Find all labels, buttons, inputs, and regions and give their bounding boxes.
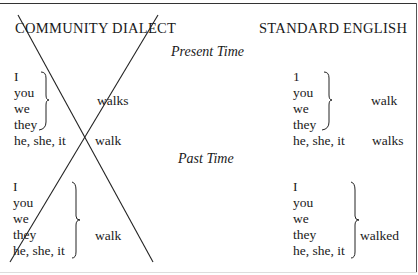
standard-english-header: STANDARD ENGLISH [259,20,407,36]
pronoun-single: he, she, it [293,133,345,149]
standard-present-group-pronouns: 1 you we they he, she, it [293,69,345,149]
pronoun: you [293,195,345,211]
standard-past-brace [351,182,359,258]
community-dialect-header: COMMUNITY DIALECT [15,20,176,36]
pronoun: we [14,101,66,117]
pronoun-single: he, she, it [14,133,66,149]
pronoun: they [293,227,345,243]
community-past-pronouns: I you we they he, she, it [13,179,65,259]
bottom-border [0,272,417,273]
pronoun: we [293,211,345,227]
dialect-comparison-table: COMMUNITY DIALECT STANDARD ENGLISH Prese… [0,0,418,275]
present-time-heading: Present Time [171,44,244,60]
community-past-brace [72,182,80,258]
pronoun: you [293,85,345,101]
pronoun: we [13,211,65,227]
past-time-heading: Past Time [178,151,234,167]
top-border [0,3,417,4]
standard-past-verb: walked [360,228,399,244]
pronoun: they [14,117,66,133]
right-border [416,3,417,272]
pronoun: I [14,69,66,85]
pronoun: we [293,101,345,117]
community-past-verb: walk [95,228,121,244]
pronoun: you [14,85,66,101]
pronoun: I [13,179,65,195]
community-present-group-pronouns: I you we they he, she, it [14,69,66,149]
pronoun: 1 [293,69,345,85]
pronoun: you [13,195,65,211]
pronoun: I [293,179,345,195]
standard-present-group-verb: walk [371,93,397,109]
pronoun: they [293,117,345,133]
pronoun: he, she, it [293,243,345,259]
standard-past-pronouns: I you we they he, she, it [293,179,345,259]
standard-present-single-verb: walks [372,133,404,149]
community-present-group-verb: walks [97,93,129,109]
community-present-single-verb: walk [95,133,121,149]
pronoun: they [13,227,65,243]
pronoun: he, she, it [13,243,65,259]
